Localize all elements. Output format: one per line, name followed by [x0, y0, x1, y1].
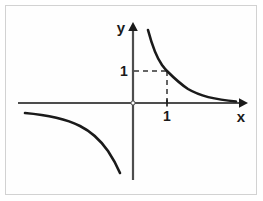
y-axis-label: y [117, 19, 126, 36]
plot-canvas: y x 1 1 [0, 0, 263, 201]
y-tick-label-1: 1 [120, 63, 128, 79]
origin-marker [131, 101, 135, 105]
y-axis-arrow-icon [128, 22, 138, 31]
hyperbola-branch-positive [148, 30, 236, 102]
hyperbola-branch-negative [25, 113, 120, 173]
x-tick-label-1: 1 [163, 108, 171, 124]
x-axis-arrow-icon [239, 98, 248, 108]
hyperbola-figure: y x 1 1 [0, 0, 263, 201]
x-axis-label: x [237, 108, 246, 125]
